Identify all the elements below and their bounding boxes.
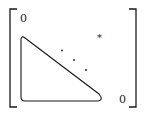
right-bracket	[129, 9, 136, 107]
diagonal-dot-3	[85, 69, 87, 71]
top-left-zero: 0	[20, 13, 27, 24]
diagonal-dot-1	[61, 50, 63, 52]
asterisk-entry: *	[97, 33, 102, 43]
bottom-right-zero: 0	[119, 94, 126, 105]
lower-triangle-block	[21, 37, 101, 101]
left-bracket	[10, 9, 17, 107]
diagonal-dot-2	[73, 59, 75, 61]
